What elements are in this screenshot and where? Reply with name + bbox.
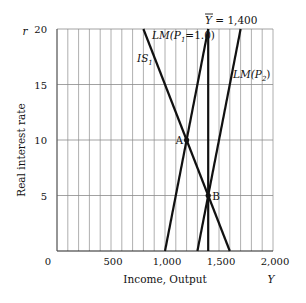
point-b-label: B [212, 190, 220, 202]
point-b [206, 193, 211, 198]
grid [57, 29, 273, 251]
point-a [184, 137, 189, 142]
x-tick-label: 0 [45, 256, 51, 267]
x-tick-label: 1,000 [153, 256, 182, 267]
ybar-label: Y = 1,400 [205, 14, 257, 26]
x-tick-label: 2,000 [261, 256, 290, 267]
y-tick-label: 5 [41, 191, 47, 202]
y-tick-label: 20 [34, 24, 47, 35]
labels: 05001,0001,5002,0002015105Income, Output… [15, 14, 289, 285]
y-tick-label: 10 [34, 135, 47, 146]
y-var-label: r [22, 25, 28, 37]
x-var-label: Y [268, 273, 276, 285]
point-a-label: A [175, 134, 184, 146]
x-tick-label: 1,500 [207, 256, 236, 267]
is1-label: IS1 [136, 52, 153, 67]
y-tick-label: 15 [34, 80, 47, 91]
x-axis-label: Income, Output [123, 273, 207, 285]
x-tick-label: 500 [103, 256, 122, 267]
y-axis-label: Real interest rate [15, 103, 27, 197]
chart: 05001,0001,5002,0002015105Income, Output… [0, 0, 306, 303]
